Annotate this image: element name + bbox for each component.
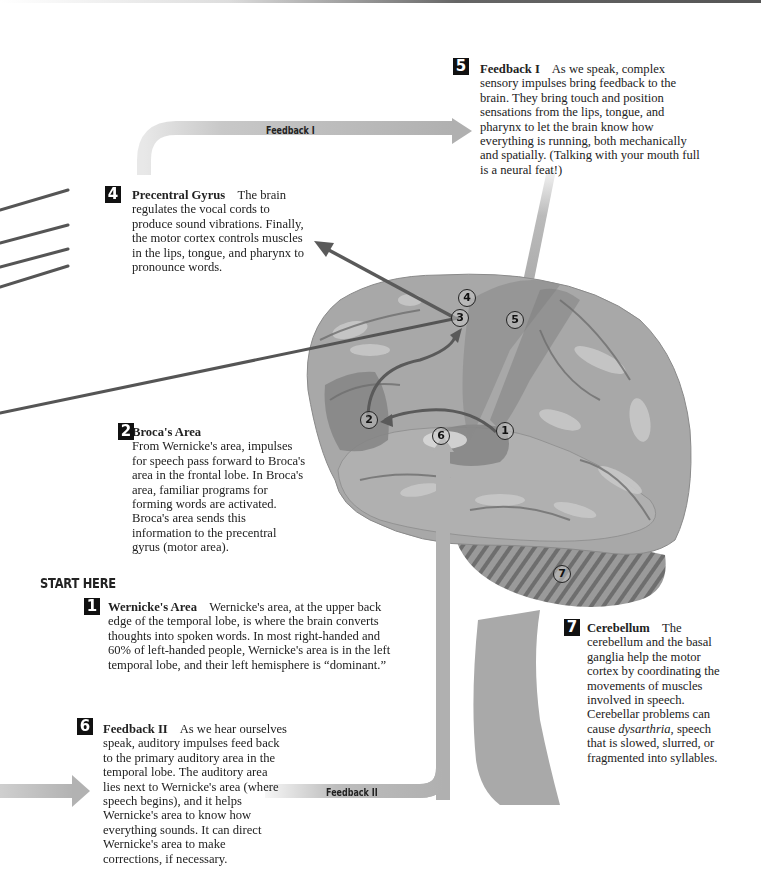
step-7-text-italic: dysarthria xyxy=(618,722,670,736)
step-4-badge: 4 xyxy=(105,186,121,203)
feedback-1-label: Feedback I xyxy=(266,125,315,136)
step-5-badge: 5 xyxy=(453,58,469,75)
marker-5: 5 xyxy=(506,311,524,329)
step-6-feedback-2: 6 Feedback II As we hear ourselves speak… xyxy=(77,722,287,866)
feedback-2-label: Feedback II xyxy=(326,787,378,798)
marker-4: 4 xyxy=(458,289,476,307)
step-7-cerebellum: 7 Cerebellum The cerebellum and the basa… xyxy=(564,621,729,765)
step-6-text: As we hear ourselves speak, auditory imp… xyxy=(103,722,287,866)
step-4-precentral-gyrus: 4 Precentral Gyrus The brain regulates t… xyxy=(106,188,306,274)
step-2-text: From Wernicke's area, impulses for speec… xyxy=(132,439,306,554)
step-5-text: As we speak, complex sensory impulses br… xyxy=(480,62,700,177)
step-6-title: Feedback II xyxy=(103,722,168,736)
marker-2: 2 xyxy=(360,411,378,429)
step-1-wernickes-area: 1 Wernicke's Area Wernicke's area, at th… xyxy=(84,600,404,672)
step-7-title: Cerebellum xyxy=(587,621,650,635)
step-1-title: Wernicke's Area xyxy=(108,600,197,614)
start-here-label: START HERE xyxy=(40,575,116,591)
brain-stem xyxy=(473,610,560,805)
step-7-text-before: The cerebellum and the basal ganglia hel… xyxy=(587,621,720,736)
marker-7: 7 xyxy=(553,565,571,583)
marker-3: 3 xyxy=(451,309,469,327)
step-2-brocas-area: 2 Broca's Area From Wernicke's area, imp… xyxy=(106,425,306,555)
step-4-title: Precentral Gyrus xyxy=(132,188,225,202)
step-5-title: Feedback I xyxy=(480,62,540,76)
step-6-badge: 6 xyxy=(77,718,93,735)
marker-6: 6 xyxy=(432,427,450,445)
step-1-badge: 1 xyxy=(84,598,100,615)
step-5-feedback-1: 5 Feedback I As we speak, complex sensor… xyxy=(454,62,704,177)
step-2-badge: 2 xyxy=(118,423,134,440)
marker-1: 1 xyxy=(496,422,514,440)
step-7-badge: 7 xyxy=(564,619,580,636)
step-2-title: Broca's Area xyxy=(132,425,306,439)
